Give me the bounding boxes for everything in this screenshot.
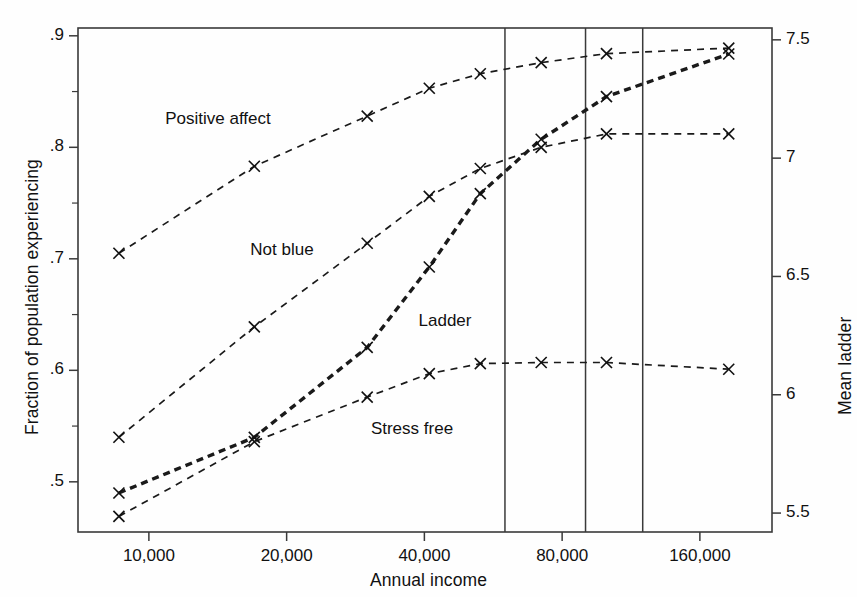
ytick-label-left: .9 xyxy=(0,25,64,45)
y-axis-left-title: Fraction of population experiencing xyxy=(22,159,43,435)
xtick-label: 20,000 xyxy=(207,546,367,566)
xtick-label: 80,000 xyxy=(482,546,642,566)
xtick-label: 10,000 xyxy=(69,546,229,566)
plot-frame xyxy=(78,28,772,532)
x-axis-title: Annual income xyxy=(0,570,857,591)
ytick-label-left: .5 xyxy=(0,471,64,491)
series-label-ladder: Ladder xyxy=(355,311,535,331)
xtick-label: 160,000 xyxy=(620,546,780,566)
ytick-label-right: 7 xyxy=(786,147,856,167)
series-label-stress-free: Stress free xyxy=(322,419,502,439)
xtick-label: 40,000 xyxy=(344,546,504,566)
ytick-label-right: 6.5 xyxy=(786,265,856,285)
series-label-positive-affect: Positive affect xyxy=(128,109,308,129)
ytick-label-left: .8 xyxy=(0,136,64,156)
y-axis-right-title: Mean ladder xyxy=(835,317,856,415)
series-label-not-blue: Not blue xyxy=(192,240,372,260)
chart-canvas xyxy=(0,0,857,597)
ytick-label-right: 5.5 xyxy=(786,502,856,522)
vertical-reference-lines xyxy=(505,28,643,532)
chart-figure: .5 .6 .7 .8 .9 5.5 6 6.5 7 7.5 10,000 20… xyxy=(0,0,857,597)
ytick-label-right: 7.5 xyxy=(786,29,856,49)
